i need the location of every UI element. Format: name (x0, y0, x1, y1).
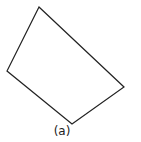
figure-label: (a) (50, 124, 74, 138)
diagram-canvas (0, 0, 141, 142)
quadrilateral-shape (7, 7, 124, 124)
